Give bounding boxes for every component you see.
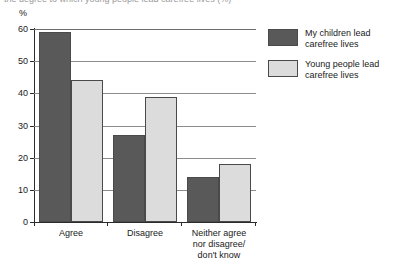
bar [219, 164, 251, 222]
legend-swatch-my-children [268, 29, 298, 46]
y-axis-tick-label: 20 [18, 153, 28, 162]
x-axis-category-label: Disagree [127, 228, 163, 239]
bar [71, 80, 103, 222]
bar-chart: the degree to which young people lead ca… [0, 0, 394, 268]
cropped-chart-title: the degree to which young people lead ca… [4, 0, 384, 5]
chart-legend: My children lead carefree lives Young pe… [268, 28, 392, 90]
y-axis-tick-label: 30 [18, 121, 28, 130]
x-axis-tick [107, 222, 108, 226]
legend-item: My children lead carefree lives [268, 28, 392, 50]
x-axis-tick [255, 222, 256, 226]
x-axis-tick [34, 222, 35, 226]
x-axis-tick [181, 222, 182, 226]
y-axis-tick-label: 40 [18, 89, 28, 98]
y-axis-tick [30, 93, 34, 94]
y-axis-tick-label: 60 [18, 25, 28, 34]
plot-area: 0102030405060AgreeDisagreeNeither agreen… [34, 29, 256, 222]
legend-item: Young people lead carefree lives [268, 59, 392, 81]
y-axis-tick [30, 61, 34, 62]
y-axis-tick [30, 190, 34, 191]
x-axis-category-label: Agree [59, 228, 83, 239]
x-axis-category-label: Neither agreenor disagree/don't know [192, 228, 247, 261]
bar [145, 97, 177, 222]
y-axis-tick [30, 126, 34, 127]
y-axis-tick-label: 50 [18, 57, 28, 66]
bar [187, 177, 219, 222]
y-axis-tick [30, 158, 34, 159]
legend-label-my-children: My children lead carefree lives [305, 28, 371, 50]
y-axis-tick [30, 29, 34, 30]
bar [39, 32, 71, 222]
bar [113, 135, 145, 222]
y-axis-tick-label: 10 [18, 185, 28, 194]
legend-swatch-young-people [268, 60, 298, 77]
legend-label-young-people: Young people lead carefree lives [305, 59, 379, 81]
y-axis-tick-label: 0 [23, 218, 28, 227]
y-axis-unit-label: % [19, 8, 27, 18]
x-axis-line [34, 222, 257, 223]
gridline [34, 29, 256, 30]
